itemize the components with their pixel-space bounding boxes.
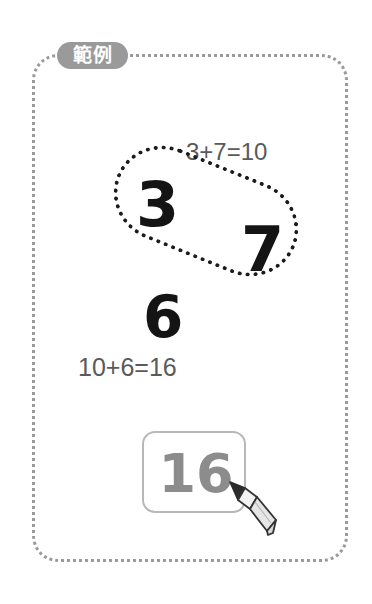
example-badge: 範例 <box>57 42 128 69</box>
example-badge-label: 範例 <box>73 46 113 65</box>
worksheet-screen: 範例 3+7=10 3 7 6 10+6=16 16 <box>0 0 372 604</box>
pencil-icon <box>228 478 280 538</box>
numeral-six: 6 <box>143 288 183 346</box>
numeral-seven: 7 <box>241 219 284 281</box>
equation-middle: 10+6=16 <box>78 355 177 380</box>
numeral-three: 3 <box>136 174 179 236</box>
